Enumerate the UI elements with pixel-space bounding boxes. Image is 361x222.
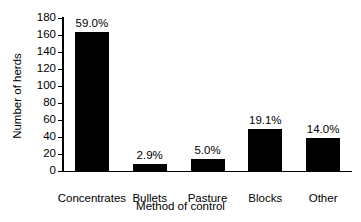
y-axis-tick-label: 60 [43,114,56,126]
y-axis-tick [58,154,63,155]
y-axis-tick-label: 100 [37,80,56,92]
y-axis-tick-label: 80 [43,97,56,109]
bar-value-label: 59.0% [76,18,109,30]
y-axis-tick [58,86,63,87]
y-axis-tick-label: 180 [37,12,56,24]
bar-value-label: 5.0% [194,145,220,157]
y-axis-tick [58,103,63,104]
y-axis-tick [58,171,63,172]
y-axis-tick [58,52,63,53]
y-axis-tick-label: 160 [37,29,56,41]
y-axis-tick [58,69,63,70]
y-axis-tick [58,137,63,138]
bar [133,164,167,171]
x-axis-title: Method of control [0,200,361,212]
bar-value-label: 19.1% [249,115,282,127]
bar [75,32,109,171]
y-axis-tick-label: 0 [50,165,56,177]
bar-value-label: 2.9% [137,150,163,162]
y-axis-tick-label: 40 [43,131,56,143]
y-axis-tick-label: 140 [37,46,56,58]
plot-area: 02040608010012014016018059.0%Concentrate… [63,18,352,171]
bar-chart: Number of herds 020406080100120140160180… [0,0,361,222]
y-axis-tick-label: 120 [37,63,56,75]
y-axis-title: Number of herds [11,26,23,166]
bar [248,129,282,172]
y-axis-tick-label: 20 [43,148,56,160]
bar [191,159,225,171]
bar [306,138,340,171]
bar-value-label: 14.0% [307,124,340,136]
y-axis-tick [58,18,63,19]
y-axis-tick [58,35,63,36]
y-axis-tick [58,120,63,121]
